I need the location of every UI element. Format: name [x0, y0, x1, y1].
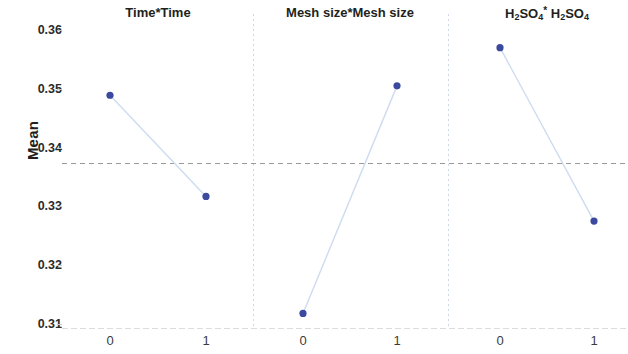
interaction-plot: Mean 0.360.350.340.330.320.31 Time*TimeM… — [0, 0, 628, 354]
data-point-marker — [590, 218, 597, 225]
data-series-layer — [0, 0, 628, 354]
data-point-marker — [202, 193, 209, 200]
series-line — [500, 48, 594, 221]
data-point-marker — [393, 82, 400, 89]
data-point-marker — [496, 44, 503, 51]
series-line — [110, 95, 206, 196]
data-point-marker — [299, 310, 306, 317]
data-point-marker — [106, 92, 113, 99]
series-line — [303, 86, 397, 314]
